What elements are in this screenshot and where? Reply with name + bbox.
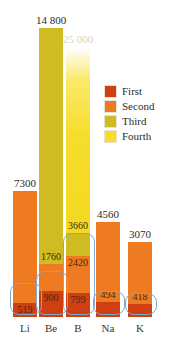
x-axis-label-k: K <box>123 322 157 335</box>
bar-group-b[interactable]: 25 000 3660 2420 799 <box>66 47 90 317</box>
x-axis-label-na: Na <box>91 322 125 335</box>
bar-segment-b-first[interactable]: 799 <box>66 293 90 317</box>
legend-swatch-first-icon <box>104 85 117 98</box>
legend-label-third: Third <box>122 115 146 127</box>
legend-label-fourth: Fourth <box>122 130 151 142</box>
bar-segment-be-first[interactable]: 900 <box>39 291 63 317</box>
bar-segment-be-second[interactable]: 1760 <box>39 264 63 291</box>
legend-item-fourth[interactable]: Fourth <box>104 129 166 143</box>
bar-value-b-fourth: 25 000 <box>63 33 93 45</box>
legend-label-second: Second <box>122 100 154 112</box>
bar-value-k-first: 418 <box>128 291 152 302</box>
ionization-energy-bar-chart: 7300 519 14 800 1760 900 25 000 3660 242… <box>0 0 171 339</box>
bar-segment-li-first[interactable]: 519 <box>13 303 37 317</box>
bar-segment-k-first[interactable]: 418 <box>128 304 152 317</box>
bar-segment-na-first[interactable]: 494 <box>96 302 120 317</box>
bar-group-li[interactable]: 7300 519 <box>13 191 37 317</box>
bar-group-k[interactable]: 3070 418 <box>128 242 152 317</box>
bar-group-be[interactable]: 14 800 1760 900 <box>39 28 63 317</box>
bar-group-na[interactable]: 4560 494 <box>96 222 120 317</box>
bar-value-na-first: 494 <box>96 289 120 300</box>
bar-value-b-third: 3660 <box>66 220 90 231</box>
bar-segment-b-third[interactable]: 3660 <box>66 233 90 256</box>
legend-item-third[interactable]: Third <box>104 114 166 128</box>
bar-segment-li-second[interactable] <box>13 191 37 303</box>
bar-value-k-second: 3070 <box>129 228 151 240</box>
legend-swatch-second-icon <box>104 100 117 113</box>
bar-value-be-third: 14 800 <box>36 14 66 26</box>
bar-value-b-first: 799 <box>66 294 90 305</box>
bar-value-li-first: 519 <box>13 304 37 315</box>
legend-label-first: First <box>122 85 142 97</box>
chart-legend: First Second Third Fourth <box>104 84 166 144</box>
bar-segment-b-fourth[interactable] <box>66 47 90 233</box>
legend-item-second[interactable]: Second <box>104 99 166 113</box>
bar-segment-b-second[interactable]: 2420 <box>66 256 90 293</box>
bar-value-be-second: 1760 <box>39 251 63 262</box>
legend-item-first[interactable]: First <box>104 84 166 98</box>
legend-swatch-fourth-icon <box>104 130 117 143</box>
bar-value-be-first: 900 <box>39 292 63 303</box>
x-axis-label-b: B <box>61 322 95 335</box>
bar-value-b-second: 2420 <box>66 257 90 268</box>
bar-value-li-second: 7300 <box>14 177 36 189</box>
bar-segment-be-third[interactable] <box>39 28 63 264</box>
bar-value-na-second: 4560 <box>97 208 119 220</box>
legend-swatch-third-icon <box>104 115 117 128</box>
